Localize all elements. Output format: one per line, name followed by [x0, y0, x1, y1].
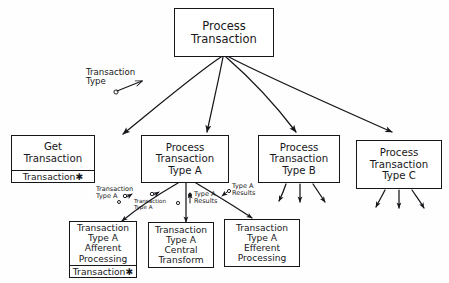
- module-label-line: Transaction: [155, 225, 207, 235]
- couple-label-line: Results: [232, 190, 255, 197]
- module-label-line: Transaction: [236, 223, 288, 233]
- module-label: Process Transaction Type B: [259, 136, 339, 182]
- link-root-to-type-a: [207, 57, 223, 132]
- couple-label-type-a-results-2: Type A Results: [232, 183, 255, 197]
- module-label-line: Transaction: [24, 153, 82, 164]
- module-type-a-afferent-processing[interactable]: Transaction Type A Afferent Processing T…: [69, 221, 137, 278]
- module-label: Get Transaction: [12, 136, 94, 170]
- module-label: Transaction Type A Efferent Processing: [225, 220, 299, 266]
- module-label: Transaction Type A Afferent Processing: [70, 222, 136, 265]
- module-process-transaction-type-a[interactable]: Process Transaction Type A: [141, 135, 229, 183]
- stub-type-c-3: [412, 190, 424, 208]
- couple-circle-transaction-type-a-2: [150, 192, 153, 195]
- module-data-compartment: Transaction✱: [70, 265, 136, 278]
- link-root-to-type-c: [229, 57, 392, 132]
- module-label-line: Processing: [238, 253, 287, 263]
- module-label: Transaction Type A Central Transform: [149, 223, 213, 267]
- module-label-line: Afferent: [85, 243, 122, 253]
- module-process-transaction-type-c[interactable]: Process Transaction Type C: [356, 140, 442, 189]
- module-label-line: Transaction: [191, 33, 257, 46]
- module-label-line: Efferent: [244, 243, 280, 253]
- module-get-transaction[interactable]: Get Transaction Transaction✱: [11, 135, 95, 183]
- couple-label-transaction-type-a-2: Transaction Type A: [134, 199, 166, 211]
- module-label-line: Process: [202, 20, 246, 33]
- couple-tick-3: [222, 192, 227, 196]
- module-data-compartment: Transaction✱: [12, 170, 94, 183]
- module-label-line: Transaction: [77, 223, 129, 233]
- module-type-a-central-transform[interactable]: Transaction Type A Central Transform: [148, 222, 214, 268]
- module-label-line: Processing: [79, 254, 128, 264]
- couple-label-transaction-type: Transaction Type: [86, 68, 135, 86]
- module-label-line: Transaction: [370, 159, 428, 170]
- module-type-a-efferent-processing[interactable]: Transaction Type A Efferent Processing: [224, 219, 300, 267]
- module-process-transaction[interactable]: Process Transaction: [174, 8, 274, 57]
- couple-label-transaction-type-a-1: Transaction Type A: [96, 186, 133, 200]
- module-label-line: Process: [280, 142, 319, 153]
- module-label-line: Type C: [382, 170, 416, 181]
- couple-circle-type-a-results-2: [227, 189, 230, 192]
- module-label-line: Type A: [247, 233, 277, 243]
- module-label: Process Transaction: [175, 9, 273, 56]
- module-label-line: Get: [44, 141, 62, 152]
- module-label-line: Process: [380, 147, 419, 158]
- couple-label-type-a-results-1: Type A Results: [194, 191, 217, 205]
- link-root-to-type-b: [226, 57, 296, 132]
- module-label: Process Transaction Type A: [142, 136, 228, 182]
- module-label-line: Type A: [166, 235, 196, 245]
- module-label-line: Type A: [168, 165, 202, 176]
- stub-type-b-1: [279, 184, 286, 201]
- couple-circle-transaction-type-a-1b: [118, 201, 121, 204]
- couple-circle-transaction-type: [114, 90, 118, 94]
- couple-label-line: Type: [86, 77, 135, 86]
- module-process-transaction-type-b[interactable]: Process Transaction Type B: [258, 135, 340, 183]
- module-label-line: Central: [164, 245, 197, 255]
- stub-type-b-3: [313, 184, 325, 202]
- module-label-line: Type A: [88, 233, 118, 243]
- module-label-line: Type B: [282, 165, 316, 176]
- couple-label-line: Type A: [96, 193, 133, 200]
- couple-label-line: Type A: [134, 205, 166, 211]
- stub-type-c-1: [376, 190, 385, 207]
- link-root-to-get-transaction: [123, 57, 221, 134]
- couple-circle-transaction-type-a-2b: [176, 201, 179, 204]
- module-label-line: Transform: [158, 255, 203, 265]
- module-label-line: Transaction: [156, 153, 214, 164]
- module-label-line: Transaction: [270, 153, 328, 164]
- module-label-line: Process: [166, 142, 205, 153]
- module-label: Process Transaction Type C: [357, 141, 441, 188]
- couple-label-line: Results: [194, 198, 217, 205]
- structure-chart-canvas: Process Transaction Get Transaction Tran…: [0, 0, 449, 283]
